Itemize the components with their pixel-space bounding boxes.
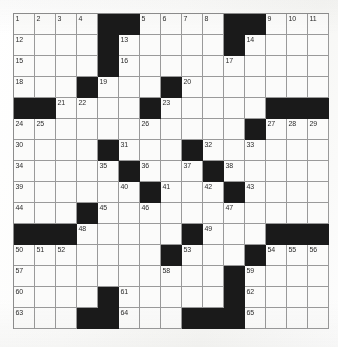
numbered-letter-cell[interactable]: 3 <box>56 14 77 35</box>
letter-cell[interactable] <box>119 203 140 224</box>
numbered-letter-cell[interactable]: 64 <box>119 308 140 329</box>
numbered-letter-cell[interactable]: 20 <box>182 77 203 98</box>
letter-cell[interactable] <box>56 56 77 77</box>
letter-cell[interactable] <box>203 203 224 224</box>
numbered-letter-cell[interactable]: 11 <box>308 14 329 35</box>
letter-cell[interactable] <box>140 224 161 245</box>
letter-cell[interactable] <box>77 56 98 77</box>
numbered-letter-cell[interactable]: 31 <box>119 140 140 161</box>
numbered-letter-cell[interactable]: 17 <box>224 56 245 77</box>
numbered-letter-cell[interactable]: 1 <box>14 14 35 35</box>
letter-cell[interactable] <box>161 203 182 224</box>
letter-cell[interactable] <box>308 35 329 56</box>
letter-cell[interactable] <box>98 266 119 287</box>
letter-cell[interactable] <box>224 224 245 245</box>
numbered-letter-cell[interactable]: 26 <box>140 119 161 140</box>
letter-cell[interactable] <box>287 161 308 182</box>
letter-cell[interactable] <box>35 56 56 77</box>
numbered-letter-cell[interactable]: 24 <box>14 119 35 140</box>
letter-cell[interactable] <box>245 224 266 245</box>
letter-cell[interactable] <box>287 203 308 224</box>
numbered-letter-cell[interactable]: 22 <box>77 98 98 119</box>
letter-cell[interactable] <box>308 203 329 224</box>
numbered-letter-cell[interactable]: 63 <box>14 308 35 329</box>
letter-cell[interactable] <box>161 224 182 245</box>
letter-cell[interactable] <box>119 224 140 245</box>
letter-cell[interactable] <box>287 56 308 77</box>
numbered-letter-cell[interactable]: 28 <box>287 119 308 140</box>
numbered-letter-cell[interactable]: 34 <box>14 161 35 182</box>
letter-cell[interactable] <box>56 161 77 182</box>
letter-cell[interactable] <box>56 287 77 308</box>
numbered-letter-cell[interactable]: 50 <box>14 245 35 266</box>
letter-cell[interactable] <box>77 287 98 308</box>
numbered-letter-cell[interactable]: 47 <box>224 203 245 224</box>
numbered-letter-cell[interactable]: 30 <box>14 140 35 161</box>
letter-cell[interactable] <box>140 35 161 56</box>
numbered-letter-cell[interactable]: 56 <box>308 245 329 266</box>
letter-cell[interactable] <box>56 266 77 287</box>
letter-cell[interactable] <box>224 140 245 161</box>
numbered-letter-cell[interactable]: 21 <box>56 98 77 119</box>
letter-cell[interactable] <box>98 98 119 119</box>
letter-cell[interactable] <box>77 140 98 161</box>
letter-cell[interactable] <box>35 287 56 308</box>
numbered-letter-cell[interactable]: 35 <box>98 161 119 182</box>
letter-cell[interactable] <box>266 266 287 287</box>
letter-cell[interactable] <box>245 77 266 98</box>
letter-cell[interactable] <box>56 140 77 161</box>
letter-cell[interactable] <box>140 266 161 287</box>
letter-cell[interactable] <box>56 77 77 98</box>
letter-cell[interactable] <box>98 182 119 203</box>
letter-cell[interactable] <box>308 182 329 203</box>
numbered-letter-cell[interactable]: 7 <box>182 14 203 35</box>
letter-cell[interactable] <box>266 308 287 329</box>
letter-cell[interactable] <box>140 56 161 77</box>
letter-cell[interactable] <box>119 266 140 287</box>
numbered-letter-cell[interactable]: 48 <box>77 224 98 245</box>
letter-cell[interactable] <box>287 287 308 308</box>
letter-cell[interactable] <box>266 182 287 203</box>
letter-cell[interactable] <box>119 245 140 266</box>
numbered-letter-cell[interactable]: 59 <box>245 266 266 287</box>
letter-cell[interactable] <box>308 161 329 182</box>
letter-cell[interactable] <box>35 77 56 98</box>
letter-cell[interactable] <box>182 287 203 308</box>
letter-cell[interactable] <box>56 182 77 203</box>
letter-cell[interactable] <box>140 245 161 266</box>
letter-cell[interactable] <box>182 35 203 56</box>
letter-cell[interactable] <box>182 98 203 119</box>
letter-cell[interactable] <box>245 56 266 77</box>
letter-cell[interactable] <box>224 245 245 266</box>
letter-cell[interactable] <box>308 140 329 161</box>
letter-cell[interactable] <box>56 119 77 140</box>
numbered-letter-cell[interactable]: 60 <box>14 287 35 308</box>
letter-cell[interactable] <box>119 98 140 119</box>
letter-cell[interactable] <box>182 182 203 203</box>
letter-cell[interactable] <box>224 77 245 98</box>
letter-cell[interactable] <box>308 266 329 287</box>
letter-cell[interactable] <box>35 308 56 329</box>
letter-cell[interactable] <box>266 56 287 77</box>
numbered-letter-cell[interactable]: 6 <box>161 14 182 35</box>
letter-cell[interactable] <box>224 119 245 140</box>
numbered-letter-cell[interactable]: 49 <box>203 224 224 245</box>
letter-cell[interactable] <box>266 203 287 224</box>
letter-cell[interactable] <box>98 245 119 266</box>
numbered-letter-cell[interactable]: 32 <box>203 140 224 161</box>
numbered-letter-cell[interactable]: 62 <box>245 287 266 308</box>
letter-cell[interactable] <box>224 98 245 119</box>
letter-cell[interactable] <box>245 203 266 224</box>
letter-cell[interactable] <box>203 98 224 119</box>
letter-cell[interactable] <box>77 266 98 287</box>
numbered-letter-cell[interactable]: 5 <box>140 14 161 35</box>
letter-cell[interactable] <box>161 35 182 56</box>
letter-cell[interactable] <box>287 308 308 329</box>
numbered-letter-cell[interactable]: 57 <box>14 266 35 287</box>
letter-cell[interactable] <box>308 287 329 308</box>
letter-cell[interactable] <box>287 182 308 203</box>
letter-cell[interactable] <box>77 119 98 140</box>
numbered-letter-cell[interactable]: 53 <box>182 245 203 266</box>
letter-cell[interactable] <box>203 245 224 266</box>
letter-cell[interactable] <box>287 140 308 161</box>
